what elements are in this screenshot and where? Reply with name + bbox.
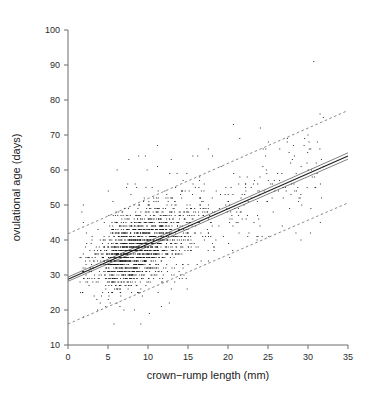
y-tick-label: 100: [45, 25, 60, 35]
y-tick-label: 80: [50, 95, 60, 105]
y-tick-label: 70: [50, 130, 60, 140]
scatter-plot-figure: 10203040506070809010005101520253035crown…: [0, 0, 369, 396]
x-tick-label: 25: [263, 352, 273, 362]
y-tick-label: 40: [50, 235, 60, 245]
y-tick-label: 30: [50, 270, 60, 280]
x-tick-label: 35: [343, 352, 353, 362]
y-tick-label: 20: [50, 305, 60, 315]
x-tick-label: 20: [223, 352, 233, 362]
y-tick-label: 50: [50, 200, 60, 210]
y-tick-label: 90: [50, 60, 60, 70]
x-tick-label: 15: [183, 352, 193, 362]
regression-line-group: [68, 111, 348, 325]
axis-label-group: 10203040506070809010005101520253035crown…: [10, 25, 353, 381]
x-tick-label: 0: [65, 352, 70, 362]
y-tick-label: 60: [50, 165, 60, 175]
x-tick-label: 10: [143, 352, 153, 362]
y-tick-label: 10: [50, 340, 60, 350]
plot-canvas: 10203040506070809010005101520253035crown…: [0, 0, 369, 396]
y-axis-title: ovulational age (days): [10, 134, 22, 242]
scatter-point-group: [80, 61, 324, 325]
axes-group: [64, 30, 348, 349]
x-tick-label: 30: [303, 352, 313, 362]
x-tick-label: 5: [105, 352, 110, 362]
x-axis-title: crown−rump length (mm): [147, 369, 270, 381]
